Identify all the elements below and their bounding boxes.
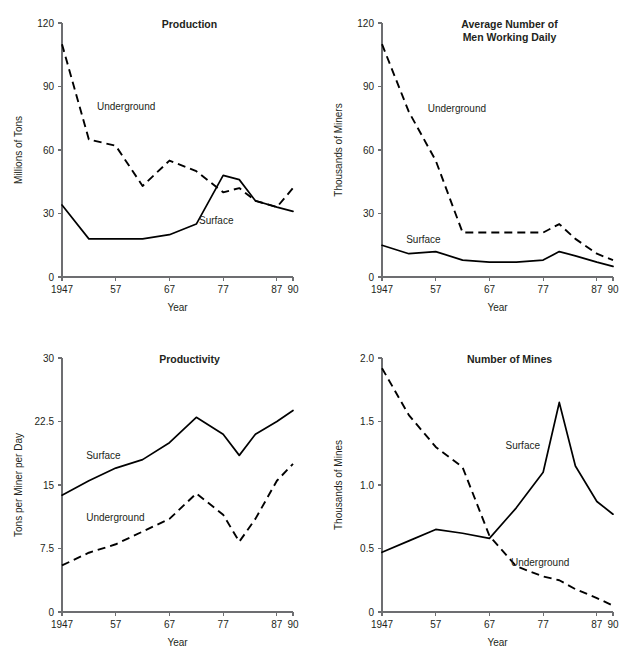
series-line-underground: [382, 44, 613, 260]
x-tick-label: 1947: [371, 619, 394, 630]
series-label-underground: Underground: [428, 103, 486, 114]
series-label-underground: Underground: [97, 101, 155, 112]
x-tick-label: 77: [538, 284, 550, 295]
chart-title: Production: [162, 18, 217, 30]
series-line-underground: [382, 368, 613, 605]
series-label-underground: Underground: [86, 512, 144, 523]
x-tick-label: 90: [607, 619, 619, 630]
y-tick-label: 7.5: [40, 543, 54, 554]
x-tick-label: 77: [218, 284, 230, 295]
x-tick-label: 67: [164, 284, 176, 295]
x-tick-label: 87: [591, 619, 603, 630]
chart-panel-number-of-mines: 00.51.01.52.019475767778790YearThousands…: [320, 335, 640, 670]
series-line-underground: [62, 44, 293, 207]
y-tick-label: 15: [43, 480, 55, 491]
x-tick-label: 57: [430, 619, 442, 630]
chart-production: 030609012019475767778790YearMillions of …: [0, 0, 320, 335]
x-tick-label: 87: [271, 284, 283, 295]
x-tick-label: 87: [271, 619, 283, 630]
series-label-surface: Surface: [86, 450, 121, 461]
y-tick-label: 60: [363, 145, 375, 156]
chart-title: Number of Mines: [467, 353, 552, 365]
series-label-surface: Surface: [406, 234, 441, 245]
x-tick-label: 57: [110, 284, 122, 295]
chart-panel-men-working-daily: 030609012019475767778790YearThousands of…: [320, 0, 640, 335]
y-tick-label: 0.5: [360, 543, 374, 554]
y-tick-label: 0: [368, 607, 374, 618]
series-label-surface: Surface: [506, 440, 541, 451]
x-tick-label: 77: [218, 619, 230, 630]
series-line-surface: [62, 175, 293, 239]
x-axis-title: Year: [487, 637, 508, 648]
y-tick-label: 30: [43, 208, 55, 219]
x-tick-label: 57: [110, 619, 122, 630]
x-tick-label: 67: [164, 619, 176, 630]
y-tick-label: 22.5: [35, 416, 55, 427]
y-tick-label: 30: [363, 208, 375, 219]
chart-productivity: 07.51522.53019475767778790YearTons per M…: [0, 335, 320, 670]
y-tick-label: 1.0: [360, 480, 374, 491]
x-tick-label: 67: [484, 284, 496, 295]
x-tick-label: 1947: [371, 284, 394, 295]
chart-number-of-mines: 00.51.01.52.019475767778790YearThousands…: [320, 335, 640, 670]
x-tick-label: 90: [287, 284, 299, 295]
x-tick-label: 1947: [51, 619, 74, 630]
x-axis-title: Year: [167, 302, 188, 313]
x-tick-label: 67: [484, 619, 496, 630]
x-axis-title: Year: [487, 302, 508, 313]
y-tick-label: 0: [368, 272, 374, 283]
chart-men-working-daily: 030609012019475767778790YearThousands of…: [320, 0, 640, 335]
y-axis-title: Thousands of Mines: [333, 440, 344, 530]
y-tick-label: 30: [43, 353, 55, 364]
chart-panel-production: 030609012019475767778790YearMillions of …: [0, 0, 320, 335]
y-tick-label: 90: [43, 81, 55, 92]
y-tick-label: 1.5: [360, 416, 374, 427]
axis-lines: [382, 358, 613, 612]
y-axis-title: Tons per Miner per Day: [13, 433, 24, 537]
chart-panel-productivity: 07.51522.53019475767778790YearTons per M…: [0, 335, 320, 670]
y-tick-label: 2.0: [360, 353, 374, 364]
y-tick-label: 60: [43, 145, 55, 156]
series-line-surface: [382, 245, 613, 266]
y-tick-label: 0: [48, 607, 54, 618]
y-tick-label: 120: [37, 18, 54, 29]
chart-figure: 030609012019475767778790YearMillions of …: [0, 0, 641, 670]
chart-title: Productivity: [159, 353, 220, 365]
x-tick-label: 90: [607, 284, 619, 295]
y-tick-label: 90: [363, 81, 375, 92]
x-tick-label: 57: [430, 284, 442, 295]
y-axis-title: Thousands of Miners: [333, 103, 344, 196]
x-tick-label: 90: [287, 619, 299, 630]
chart-title: Average Number ofMen Working Daily: [461, 18, 558, 43]
x-tick-label: 77: [538, 619, 550, 630]
axis-lines: [62, 358, 293, 612]
x-tick-label: 87: [591, 284, 603, 295]
y-tick-label: 120: [357, 18, 374, 29]
y-tick-label: 0: [48, 272, 54, 283]
y-axis-title: Millions of Tons: [13, 116, 24, 184]
series-label-surface: Surface: [199, 215, 234, 226]
x-tick-label: 1947: [51, 284, 74, 295]
series-label-underground: Underground: [511, 557, 569, 568]
x-axis-title: Year: [167, 637, 188, 648]
